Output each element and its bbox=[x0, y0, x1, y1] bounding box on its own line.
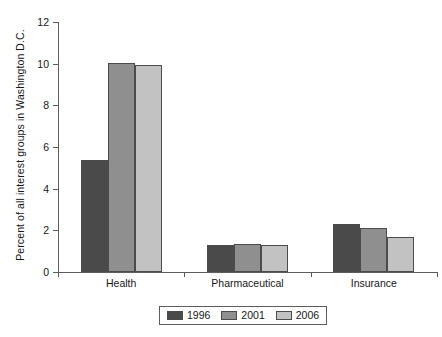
y-tick-label: 6 bbox=[9, 141, 49, 153]
bar-health-2006 bbox=[135, 65, 162, 272]
y-axis-line bbox=[58, 22, 59, 273]
y-tick-label: 2 bbox=[9, 224, 49, 236]
y-tick-mark bbox=[53, 22, 58, 23]
legend-label-2001: 2001 bbox=[241, 310, 264, 321]
bar-pharmaceutical-2006 bbox=[261, 245, 288, 272]
legend-swatch-2001 bbox=[221, 311, 237, 320]
y-tick-label: 0 bbox=[9, 266, 49, 278]
bar-insurance-1996 bbox=[333, 224, 360, 272]
y-tick-label: 8 bbox=[9, 99, 49, 111]
legend-entry-2006: 2006 bbox=[276, 310, 319, 321]
bar-pharmaceutical-1996 bbox=[207, 245, 234, 272]
legend-entry-2001: 2001 bbox=[221, 310, 264, 321]
y-tick-mark bbox=[53, 230, 58, 231]
y-tick-label: 4 bbox=[9, 183, 49, 195]
bar-insurance-2001 bbox=[360, 228, 387, 272]
legend-label-1996: 1996 bbox=[187, 310, 210, 321]
x-axis-line bbox=[58, 272, 437, 273]
x-tick-label-insurance: Insurance bbox=[304, 277, 442, 289]
bar-health-1996 bbox=[81, 160, 108, 273]
x-tick-label-pharmaceutical: Pharmaceutical bbox=[178, 277, 318, 289]
y-tick-mark bbox=[53, 147, 58, 148]
legend-swatch-2006 bbox=[276, 311, 292, 320]
legend-label-2006: 2006 bbox=[296, 310, 319, 321]
y-tick-mark bbox=[53, 64, 58, 65]
legend-swatch-1996 bbox=[167, 311, 183, 320]
x-tick-label-health: Health bbox=[51, 277, 191, 289]
bar-insurance-2006 bbox=[387, 237, 414, 272]
y-tick-label: 12 bbox=[9, 16, 49, 28]
bar-pharmaceutical-2001 bbox=[234, 244, 261, 272]
bar-chart: Percent of all interest groups in Washin… bbox=[0, 0, 442, 337]
y-tick-mark bbox=[53, 189, 58, 190]
y-tick-mark bbox=[53, 105, 58, 106]
y-tick-label: 10 bbox=[9, 58, 49, 70]
legend-entry-1996: 1996 bbox=[167, 310, 210, 321]
chart-legend: 199620012006 bbox=[159, 306, 327, 325]
bar-health-2001 bbox=[108, 63, 135, 272]
